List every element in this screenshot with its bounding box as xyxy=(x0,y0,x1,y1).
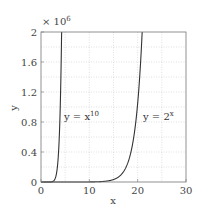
y-tick-label: 2 xyxy=(31,27,37,38)
x-tick-label: 30 xyxy=(180,185,193,196)
grid xyxy=(41,32,186,182)
y-tick-label: 0.4 xyxy=(21,147,37,158)
x-axis-label: x xyxy=(110,195,116,206)
annotation-x10: y = x10 xyxy=(63,110,99,122)
x-tick-label: 0 xyxy=(38,185,44,196)
y-tick-label: 1.6 xyxy=(21,57,37,68)
annotation-2x: y = 2x xyxy=(142,110,174,122)
x-tick-label: 10 xyxy=(83,185,96,196)
y-multiplier: × 106 xyxy=(42,15,71,27)
y-tick-label: 1.2 xyxy=(21,87,37,98)
y-axis-label: y xyxy=(8,105,19,112)
chart: 010203000.40.81.21.62 x y × 106 y = x10 … xyxy=(0,0,199,217)
x-tick-label: 20 xyxy=(131,185,144,196)
y-tick-label: 0.8 xyxy=(21,117,37,128)
y-tick-label: 0 xyxy=(31,177,37,188)
